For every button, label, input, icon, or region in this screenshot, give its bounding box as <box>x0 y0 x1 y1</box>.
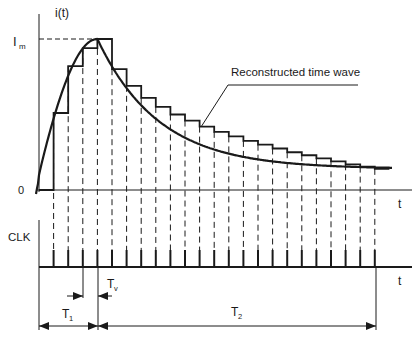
svg-text:2: 2 <box>238 312 242 321</box>
annotation-label: Reconstructed time wave <box>231 66 360 78</box>
svg-text:v: v <box>114 284 118 293</box>
svg-text:m: m <box>19 42 26 51</box>
origin-label: 0 <box>18 184 24 196</box>
clk-label: CLK <box>8 231 31 243</box>
t1-label: T 1 <box>62 307 73 323</box>
time-axis-bottom-label: t <box>398 274 402 288</box>
tv-label: T v <box>107 277 118 293</box>
svg-text:1: 1 <box>69 314 73 323</box>
annotation-leader <box>201 85 358 127</box>
time-axis-top-label: t <box>398 197 402 211</box>
y-axis-label: i(t) <box>55 6 69 20</box>
peak-label: I m <box>13 34 26 51</box>
svg-text:I: I <box>13 34 17 49</box>
continuous-wave <box>36 39 392 194</box>
diagram: Reconstructed time wave i(t) I m 0 t CLK… <box>0 0 417 341</box>
t2-label: T 2 <box>231 305 242 321</box>
clk-pulses <box>54 250 375 267</box>
